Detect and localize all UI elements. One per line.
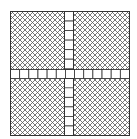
vertical-cross-cell bbox=[65, 31, 74, 41]
vertical-cross-cell bbox=[65, 97, 74, 107]
horizontal-cross-cell bbox=[29, 70, 38, 79]
horizontal-cross-cell bbox=[93, 70, 102, 79]
horizontal-cross-cell bbox=[111, 70, 120, 79]
vertical-cross-cell bbox=[65, 40, 74, 50]
vertical-cross-cell bbox=[65, 116, 74, 126]
quadrant-bottom-right bbox=[74, 79, 130, 136]
vertical-cross-cell bbox=[65, 12, 74, 22]
vertical-cross-cell bbox=[65, 107, 74, 117]
vertical-cross-cell bbox=[65, 88, 74, 98]
horizontal-cross-cell bbox=[47, 70, 56, 79]
horizontal-cross-cell bbox=[102, 70, 111, 79]
vertical-cross-cell bbox=[65, 59, 74, 69]
vertical-cross-cell bbox=[65, 21, 74, 31]
horizontal-cross-cell bbox=[38, 70, 47, 79]
horizontal-cross-cell bbox=[20, 70, 29, 79]
quadrant-top-left bbox=[11, 12, 65, 70]
horizontal-cross-cell bbox=[75, 70, 84, 79]
horizontal-cross-cell bbox=[84, 70, 93, 79]
horizontal-cross-cell bbox=[120, 70, 129, 79]
quadrant-top-right bbox=[74, 12, 130, 70]
vertical-cross-cell bbox=[65, 50, 74, 60]
quadrant-bottom-left bbox=[11, 79, 65, 136]
horizontal-cross-cell bbox=[11, 70, 20, 79]
crosshatch-grid-figure bbox=[0, 0, 137, 139]
horizontal-cross-cell bbox=[56, 70, 65, 79]
horizontal-cross-cell bbox=[65, 70, 74, 79]
vertical-cross-cell bbox=[65, 126, 74, 136]
